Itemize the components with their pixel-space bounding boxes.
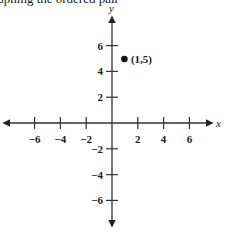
- x-tick-label: −4: [55, 133, 67, 145]
- y-tick-label: −6: [91, 194, 103, 206]
- coordinate-plane: x y −6−4−2246−6−4−2246(1,5): [0, 0, 235, 239]
- x-tick-label: −6: [29, 133, 41, 145]
- x-axis-label: x: [215, 117, 221, 129]
- data-point: [121, 56, 128, 63]
- x-tick-label: 4: [161, 133, 167, 145]
- x-tick-label: 6: [187, 133, 193, 145]
- x-tick-label: 2: [135, 133, 141, 145]
- y-tick-label: 6: [98, 40, 104, 52]
- y-tick-label: 2: [98, 91, 104, 103]
- data-point-label: (1,5): [131, 53, 152, 66]
- y-tick-label: −2: [91, 143, 103, 155]
- y-tick-label: 4: [98, 65, 104, 77]
- y-tick-label: −4: [91, 169, 103, 181]
- y-axis-label: y: [108, 2, 114, 14]
